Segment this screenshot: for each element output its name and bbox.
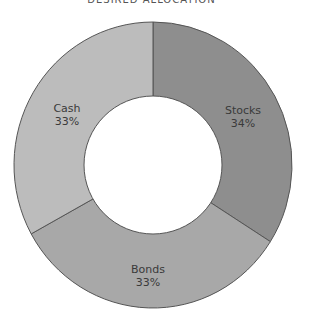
slice-label-cash: Cash 33% [37,102,97,128]
slice-percent: 33% [37,115,97,128]
donut-hole [84,96,222,234]
slice-name: Cash [37,102,97,115]
slice-percent: 33% [118,276,178,289]
slice-name: Bonds [118,263,178,276]
slice-label-bonds: Bonds 33% [118,263,178,289]
slice-label-stocks: Stocks 34% [213,104,273,130]
slice-name: Stocks [213,104,273,117]
slice-percent: 34% [213,117,273,130]
